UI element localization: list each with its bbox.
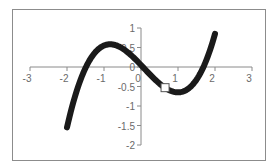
y-tick-label: -0.5	[118, 82, 136, 93]
x-tick-label: 2	[209, 73, 215, 84]
y-tick-label: -2	[126, 140, 135, 151]
data-markers	[161, 84, 169, 92]
x-tick-label: 1	[172, 73, 178, 84]
square-marker	[161, 84, 169, 92]
x-tick-label: -3	[23, 73, 32, 84]
y-tick-label: 0	[129, 62, 135, 73]
chart-plot: -3-2-1012310.50-0.5-1-1.5-2	[0, 0, 275, 167]
y-tick-label: -1.5	[118, 121, 136, 132]
x-tick-label: 0	[135, 73, 141, 84]
x-tick-label: -1	[97, 73, 106, 84]
x-tick-label: 3	[246, 73, 252, 84]
axes	[30, 28, 252, 145]
x-tick-label: -2	[60, 73, 69, 84]
y-tick-label: -1	[126, 101, 135, 112]
y-tick-label: 1	[129, 23, 135, 34]
